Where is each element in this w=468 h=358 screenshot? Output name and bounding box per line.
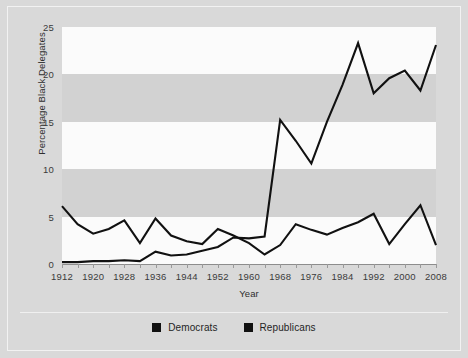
x-tick-mark [405,264,406,268]
chart-legend: DemocratsRepublicans [0,322,468,333]
x-tick-mark [109,264,110,268]
y-tick-label: 0 [49,259,54,270]
series-line-democrats [62,43,436,262]
x-tick-label: 1992 [363,271,385,282]
data-lines [62,27,436,264]
legend-item[interactable]: Republicans [244,322,316,333]
x-tick-mark [156,264,157,268]
x-tick-label: 1952 [207,271,229,282]
x-tick-label: 1928 [113,271,135,282]
x-tick-mark [280,264,281,268]
x-tick-mark [296,264,297,268]
x-tick-mark [311,264,312,268]
x-tick-label: 1920 [82,271,104,282]
x-tick-mark [202,264,203,268]
x-tick-mark [420,264,421,268]
legend-swatch-icon [152,323,161,332]
y-tick-label: 15 [43,116,54,127]
y-tick-label: 25 [43,22,54,33]
x-tick-label: 1968 [269,271,291,282]
y-tick-label: 10 [43,164,54,175]
x-tick-mark [187,264,188,268]
x-tick-label: 1944 [176,271,198,282]
x-tick-label: 1912 [51,271,73,282]
legend-divider [20,312,448,313]
plot-area [62,27,436,264]
x-tick-mark [171,264,172,268]
x-tick-mark [78,264,79,268]
x-tick-mark [343,264,344,268]
x-tick-mark [62,264,63,268]
x-tick-label: 1960 [238,271,260,282]
x-tick-mark [374,264,375,268]
x-tick-mark [327,264,328,268]
y-axis-tick-labels: 0510152025 [0,27,58,264]
x-tick-mark [358,264,359,268]
x-tick-mark [389,264,390,268]
x-tick-mark [140,264,141,268]
x-tick-mark [249,264,250,268]
series-line-republicans [62,205,436,254]
legend-label: Democrats [168,322,217,333]
x-axis-title: Year [62,288,436,299]
y-tick-label: 20 [43,69,54,80]
x-tick-mark [265,264,266,268]
chart-figure: Percentage Black Delegates 0510152025 19… [0,0,468,358]
x-tick-label: 2008 [425,271,447,282]
x-tick-mark [124,264,125,268]
x-tick-mark [93,264,94,268]
x-tick-label: 1936 [145,271,167,282]
x-tick-label: 1976 [300,271,322,282]
x-tick-label: 1984 [332,271,354,282]
legend-swatch-icon [244,323,253,332]
legend-label: Republicans [260,322,316,333]
x-tick-mark [218,264,219,268]
x-tick-label: 2000 [394,271,416,282]
x-tick-mark [233,264,234,268]
x-axis-tick-labels: 1912192019281936194419521960196819761984… [62,264,436,286]
x-tick-mark [436,264,437,268]
y-tick-label: 5 [49,211,54,222]
legend-item[interactable]: Democrats [152,322,217,333]
